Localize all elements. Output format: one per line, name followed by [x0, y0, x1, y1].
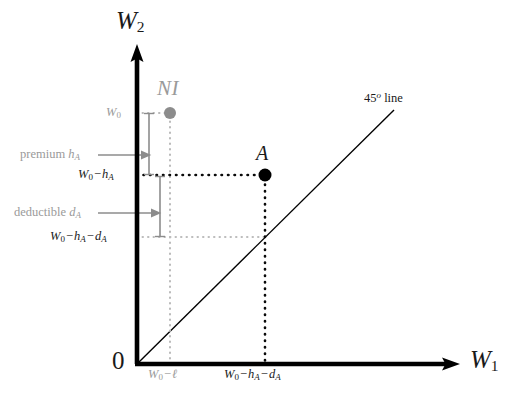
deductible-annotation-label: deductible dA — [14, 206, 81, 220]
point-ni-marker — [164, 107, 176, 119]
y-tick-label-w0: W0 — [106, 106, 121, 120]
x-axis-label: W1 — [470, 347, 499, 374]
y-tick-label-w0-minus-h: W0 − hA — [78, 168, 114, 182]
y-axis-label: W2 — [116, 8, 145, 35]
deductible-bracket — [155, 176, 165, 237]
x-tick-label-w0-minus-h-minus-d: W0 − hA − dA — [224, 368, 281, 382]
origin-label: 0 — [112, 348, 125, 373]
forty-five-degree-line-label: 45o line — [364, 91, 403, 105]
insurance-contract-diagram: W2 W1 0 NI A 45o line W0 W0 − hA W0 − hA… — [0, 0, 518, 405]
diagram-canvas — [0, 0, 518, 405]
y-tick-label-w0-minus-h-minus-d: W0 − hA − dA — [50, 230, 107, 244]
point-ni-label: NI — [157, 78, 179, 99]
premium-annotation-label: premium hA — [20, 148, 80, 162]
x-tick-label-w0-minus-ell: W0 − ℓ — [148, 368, 177, 382]
point-a-marker — [259, 169, 272, 182]
premium-bracket — [144, 113, 154, 175]
point-a-label: A — [256, 143, 268, 163]
